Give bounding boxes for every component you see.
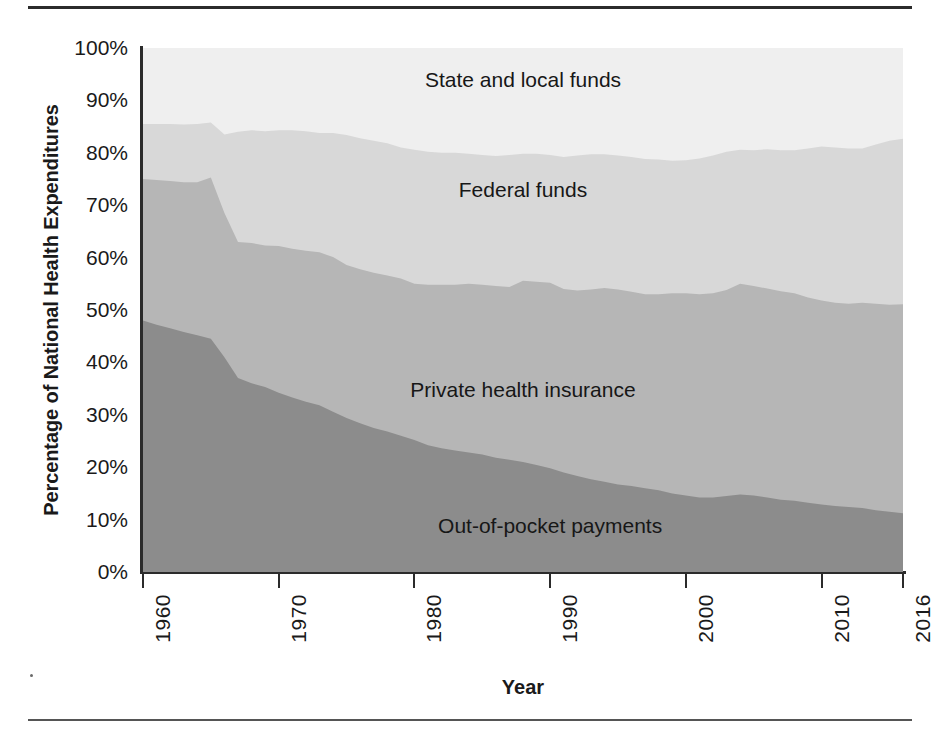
y-tick-label: 70%: [48, 194, 136, 215]
y-tick-label: 60%: [48, 247, 136, 268]
x-axis-tick-labels: 1960197019801990200020102016: [143, 572, 903, 682]
x-tick-mark: [902, 572, 904, 588]
figure-bottom-rule: [28, 719, 912, 721]
x-tick-label: 1970: [288, 594, 309, 643]
x-tick-label: 1990: [559, 594, 580, 643]
x-tick-mark: [413, 572, 415, 588]
x-tick-mark: [142, 572, 144, 588]
x-tick-label: 2010: [831, 594, 852, 643]
y-axis-tick-labels: 0%10%20%30%40%50%60%70%80%90%100%: [48, 48, 136, 572]
stacked-area-chart: [143, 48, 903, 572]
x-tick-label: 1960: [152, 594, 173, 643]
y-tick-label: 90%: [48, 89, 136, 110]
figure-top-rule: [28, 6, 912, 9]
x-tick-mark: [685, 572, 687, 588]
x-tick-mark: [821, 572, 823, 588]
y-tick-label: 30%: [48, 404, 136, 425]
y-tick-label: 0%: [48, 561, 136, 582]
x-tick-label: 2000: [695, 594, 716, 643]
y-tick-label: 80%: [48, 142, 136, 163]
x-axis-title: Year: [143, 676, 903, 699]
y-tick-label: 50%: [48, 299, 136, 320]
x-tick-label: 2016: [912, 594, 933, 643]
plot-area: [143, 48, 903, 572]
x-tick-mark: [278, 572, 280, 588]
y-tick-label: 100%: [48, 37, 136, 58]
y-tick-label: 10%: [48, 509, 136, 530]
figure-corner-dot: [30, 674, 33, 677]
x-tick-label: 1980: [423, 594, 444, 643]
y-tick-label: 20%: [48, 456, 136, 477]
y-tick-label: 40%: [48, 351, 136, 372]
x-tick-mark: [549, 572, 551, 588]
figure-container: Percentage of National Health Expenditur…: [0, 0, 937, 739]
